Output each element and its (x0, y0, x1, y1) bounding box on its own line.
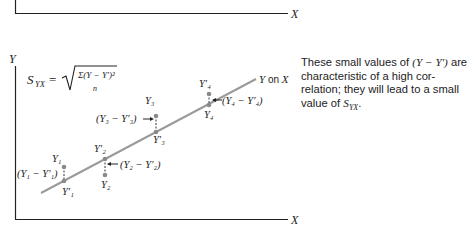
svg-text:n: n (93, 84, 97, 93)
svg-text:Y₁: Y₁ (52, 153, 62, 164)
svg-text:YX: YX (35, 79, 46, 89)
svg-text:Σ(Y − Y′)²: Σ(Y − Y′)² (77, 70, 115, 80)
x-axis-label: X (290, 213, 299, 226)
svg-text:(Y₁ − Y′₁): (Y₁ − Y′₁) (17, 168, 58, 180)
svg-text:(Y₃ − Y′₃): (Y₃ − Y′₃) (96, 113, 137, 125)
y-axis-label: Y (9, 52, 17, 66)
regression-line-label: Y on X (259, 73, 290, 85)
formula-syx: S YX = Σ(Y − Y′)² n (27, 66, 117, 93)
svg-text:(Y₂ − Y′₂): (Y₂ − Y′₂) (120, 159, 161, 171)
data-point-3: Y₃ Y′₃ (Y₃ − Y′₃) (96, 95, 165, 145)
explanatory-note: These small values of (Y − Y′) are chara… (301, 56, 471, 114)
svg-text:Y₂: Y₂ (101, 179, 111, 190)
svg-text:Y₄: Y₄ (204, 109, 214, 120)
svg-text:Y′₄: Y′₄ (199, 78, 211, 89)
svg-text:S: S (27, 72, 34, 87)
svg-text:Y′₁: Y′₁ (62, 186, 74, 197)
svg-text:Y₃: Y₃ (145, 95, 155, 106)
top-x-axis-label: X (290, 7, 299, 21)
svg-text:(Y₄ − Y′₄): (Y₄ − Y′₄) (222, 95, 263, 107)
svg-text:=: = (49, 72, 56, 87)
svg-text:Y′₂: Y′₂ (94, 143, 106, 154)
data-point-4: Y′₄ Y₄ (Y₄ − Y′₄) (199, 78, 263, 120)
top-axis: X (15, 0, 299, 21)
data-point-2: Y′₂ Y₂ (Y₂ − Y′₂) (94, 143, 161, 190)
svg-text:Y′₃: Y′₃ (153, 134, 165, 145)
